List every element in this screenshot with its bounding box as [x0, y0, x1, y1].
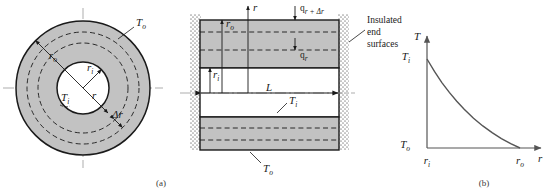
label-length: L	[265, 81, 272, 93]
label-radius: r	[92, 89, 97, 101]
label-outer-temp-mid: To	[263, 162, 273, 177]
label-flux-out: qr + Δr	[300, 3, 324, 16]
temperature-profile-curve	[427, 59, 520, 148]
panel-a-annulus: ri r ro Ti To Δr (a)	[3, 8, 166, 188]
label-outer-temp: To	[136, 16, 146, 31]
panel-b-caption: (b)	[479, 178, 490, 188]
panel-a-caption: (a)	[156, 178, 166, 188]
label-insulated-line1: Insulated	[367, 15, 402, 25]
upper-wall-block	[200, 20, 339, 68]
panel-b-temperature-chart: T r Ti To ri ro (b)	[400, 30, 543, 188]
chart-ylabel: T	[414, 30, 421, 42]
label-insulated-line3: surfaces	[367, 39, 398, 49]
figure-radial-conduction: ri r ro Ti To Δr (a)	[0, 0, 551, 196]
chart-xtick-outer: ro	[516, 154, 524, 169]
insulated-leader	[349, 30, 365, 42]
chart-xtick-inner: ri	[424, 154, 430, 169]
chart-ytick-inner: Ti	[402, 50, 410, 65]
panel-mid-longitudinal: r qr + Δr qr ro ri L Ti To	[180, 1, 402, 177]
lower-wall-block	[200, 117, 339, 150]
label-radial-axis: r	[253, 1, 258, 13]
label-shell-thickness: Δr	[111, 108, 123, 120]
chart-ytick-outer: To	[400, 138, 410, 153]
label-insulated-line2: end	[367, 27, 381, 37]
chart-xlabel: r	[538, 152, 543, 164]
outer-temp-leader-mid	[250, 152, 261, 163]
